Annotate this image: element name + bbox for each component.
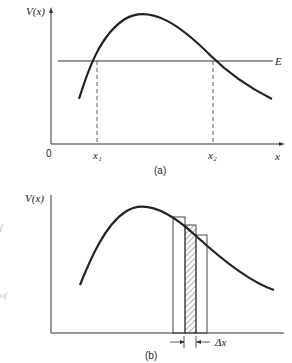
x-axis-label: x bbox=[275, 151, 280, 162]
margin-fragment: f bbox=[0, 222, 3, 232]
x2-label: x₂ bbox=[208, 150, 217, 161]
potential-curve-a bbox=[79, 14, 272, 99]
potential-curve-b bbox=[80, 206, 274, 290]
y-axis-arrow-icon bbox=[49, 7, 53, 13]
figure-a bbox=[49, 7, 285, 146]
x1-label: x₁ bbox=[93, 150, 102, 161]
origin-label: 0 bbox=[46, 149, 52, 159]
figure-b bbox=[51, 195, 284, 348]
delta-x-label: Δx bbox=[215, 337, 226, 348]
caption-b: (b) bbox=[145, 351, 157, 361]
y-axis-label-a: V(x) bbox=[26, 6, 45, 17]
strip-hatched bbox=[185, 225, 196, 333]
energy-label: E bbox=[275, 56, 282, 67]
y-axis-label-b: V(x) bbox=[25, 193, 44, 204]
caption-a: (a) bbox=[154, 166, 166, 176]
strip-left bbox=[173, 217, 185, 333]
strip-right bbox=[196, 235, 207, 333]
x-axis-arrow-icon bbox=[279, 142, 285, 146]
figure-canvas bbox=[0, 0, 292, 363]
margin-fragment: of bbox=[0, 290, 7, 300]
